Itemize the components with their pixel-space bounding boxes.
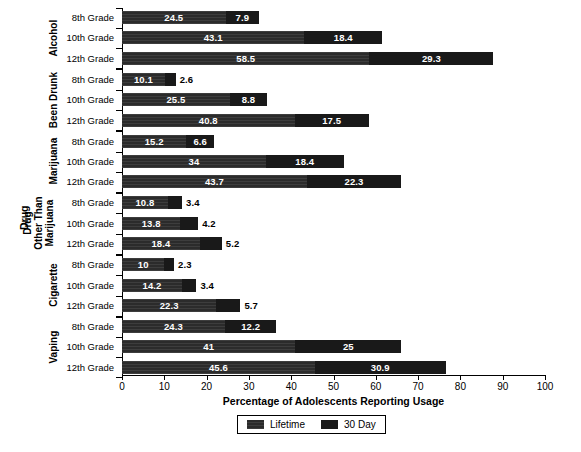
x-axis-title: Percentage of Adolescents Reporting Usag… (122, 395, 545, 407)
bar-value-30day: 3.4 (182, 196, 226, 209)
bar-segment-lifetime: 24.5 (122, 11, 226, 24)
grade-label: 12th Grade (54, 361, 114, 374)
bar-value-lifetime: 18.4 (122, 237, 200, 250)
x-axis-tick-label: 30 (229, 381, 269, 392)
bar-row: 3418.4 (122, 155, 344, 168)
grade-label: 12th Grade (54, 237, 114, 250)
grade-label: 8th Grade (54, 73, 114, 86)
grade-label: 12th Grade (54, 114, 114, 127)
legend-swatch-lifetime-icon (247, 420, 264, 429)
y-axis-tick (116, 69, 122, 70)
bar-segment-30day: 30.9 (315, 361, 446, 374)
grade-label-column: 8th Grade10th Grade12th Grade8th Grade10… (52, 0, 114, 380)
grade-label: 10th Grade (54, 217, 114, 230)
bar-value-lifetime: 10.1 (122, 73, 165, 86)
bar-value-lifetime: 45.6 (122, 361, 315, 374)
bar-segment-30day: 4.2 (180, 217, 198, 230)
bar-row: 40.817.5 (122, 114, 369, 127)
grade-label: 12th Grade (54, 175, 114, 188)
legend-item-lifetime[interactable]: Lifetime (247, 419, 305, 430)
bar-value-30day: 2.6 (176, 73, 220, 86)
bar-value-lifetime: 41 (122, 340, 295, 353)
bar-row: 18.45.2 (122, 237, 222, 250)
bar-segment-lifetime: 24.3 (122, 320, 225, 333)
bar-value-30day: 29.3 (369, 52, 493, 65)
bar-value-30day: 18.4 (266, 155, 344, 168)
x-axis-tick (122, 375, 123, 380)
y-axis-title-text: Drug (18, 206, 30, 231)
bar-segment-30day: 12.2 (225, 320, 277, 333)
legend-swatch-30day-icon (321, 420, 338, 429)
bar-segment-lifetime: 10.8 (122, 196, 168, 209)
x-axis-tick (291, 375, 292, 380)
bar-segment-lifetime: 18.4 (122, 237, 200, 250)
bar-row: 14.23.4 (122, 279, 196, 292)
bar-row: 15.26.6 (122, 135, 214, 148)
y-axis-tick (116, 255, 122, 256)
y-axis-tick (116, 172, 122, 173)
y-axis-tick (116, 110, 122, 111)
x-axis-tick-label: 0 (102, 381, 142, 392)
grade-label: 10th Grade (54, 340, 114, 353)
bar-segment-lifetime: 43.1 (122, 31, 304, 44)
bar-value-lifetime: 10.8 (122, 196, 168, 209)
bar-value-lifetime: 24.3 (122, 320, 225, 333)
bar-value-lifetime: 22.3 (122, 299, 216, 312)
bar-row: 43.722.3 (122, 175, 401, 188)
grade-label: 8th Grade (54, 320, 114, 333)
bar-segment-30day: 22.3 (307, 175, 401, 188)
grade-label: 12th Grade (54, 299, 114, 312)
bar-segment-lifetime: 34 (122, 155, 266, 168)
bar-value-lifetime: 14.2 (122, 279, 182, 292)
y-axis-tick (116, 357, 122, 358)
x-axis-tick (164, 375, 165, 380)
bar-value-30day: 18.4 (304, 31, 382, 44)
x-axis-tick-label: 60 (356, 381, 396, 392)
bar-value-lifetime: 15.2 (122, 135, 186, 148)
bar-value-lifetime: 34 (122, 155, 266, 168)
bar-segment-30day: 2.3 (164, 258, 174, 271)
bar-segment-30day: 5.2 (200, 237, 222, 250)
grade-label: 12th Grade (54, 52, 114, 65)
bar-value-lifetime: 24.5 (122, 11, 226, 24)
grade-label: 8th Grade (54, 11, 114, 24)
bar-segment-lifetime: 10.1 (122, 73, 165, 86)
bar-segment-30day: 3.4 (168, 196, 182, 209)
bar-row: 102.3 (122, 258, 174, 271)
x-axis-tick (418, 375, 419, 380)
bar-segment-30day: 17.5 (295, 114, 369, 127)
x-axis-tick (249, 375, 250, 380)
bar-value-30day: 12.2 (225, 320, 277, 333)
bar-row: 58.529.3 (122, 52, 493, 65)
legend-item-30day[interactable]: 30 Day (321, 419, 376, 430)
bar-segment-30day: 8.8 (230, 93, 267, 106)
y-axis-tick (116, 213, 122, 214)
bar-value-lifetime: 13.8 (122, 217, 180, 230)
bar-segment-30day: 2.6 (165, 73, 176, 86)
grade-label: 10th Grade (54, 93, 114, 106)
x-axis-tick (460, 375, 461, 380)
bar-segment-lifetime: 14.2 (122, 279, 182, 292)
grade-label: 10th Grade (54, 31, 114, 44)
grade-label: 10th Grade (54, 155, 114, 168)
x-axis-tick-label: 90 (483, 381, 523, 392)
bar-segment-30day: 18.4 (304, 31, 382, 44)
y-axis-tick (116, 28, 122, 29)
bar-row: 4125 (122, 340, 401, 353)
y-axis-tick (116, 90, 122, 91)
bar-segment-30day: 25 (295, 340, 401, 353)
plot-area: 24.57.943.118.458.529.310.12.625.58.840.… (122, 8, 545, 375)
x-axis-tick-label: 100 (525, 381, 565, 392)
bar-segment-lifetime: 15.2 (122, 135, 186, 148)
bar-segment-30day: 6.6 (186, 135, 214, 148)
y-axis-tick (116, 193, 122, 194)
grade-label: 10th Grade (54, 279, 114, 292)
bar-row: 24.57.9 (122, 11, 259, 24)
bar-segment-lifetime: 22.3 (122, 299, 216, 312)
x-axis-tick-label: 40 (271, 381, 311, 392)
x-axis-tick-label: 10 (144, 381, 184, 392)
y-axis-tick (116, 48, 122, 49)
bar-value-lifetime: 43.1 (122, 31, 304, 44)
x-axis-tick-label: 50 (314, 381, 354, 392)
y-axis-tick (116, 131, 122, 132)
